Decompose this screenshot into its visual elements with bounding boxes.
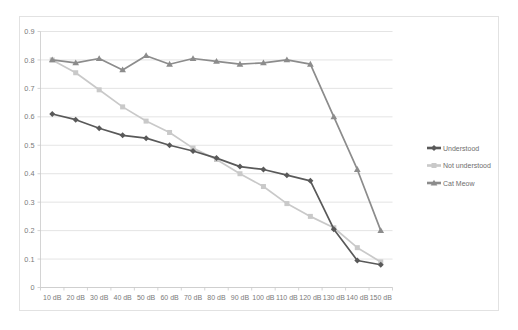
data-point-marker: [307, 178, 313, 184]
y-tick-label: 0.8: [24, 56, 34, 65]
data-point-marker: [143, 135, 149, 141]
x-tick-label: 70 dB: [184, 294, 203, 301]
x-tick-label: 110 dB: [276, 294, 298, 301]
data-point-marker: [96, 55, 103, 61]
y-tick-label: 0.6: [24, 112, 34, 121]
legend-label: Understood: [443, 145, 479, 152]
x-tick-label: 80 dB: [207, 294, 226, 301]
series-cat-meow: [49, 52, 384, 233]
series-line: [52, 114, 381, 265]
legend-label: Not understood: [443, 162, 491, 169]
data-point-marker: [97, 87, 102, 92]
data-point-marker: [143, 52, 150, 58]
x-tick-label: 130 dB: [323, 294, 346, 301]
data-point-marker: [120, 132, 126, 138]
line-chart: 00.10.20.30.40.50.60.70.80.9 10 dB20 dB3…: [0, 0, 518, 330]
data-point-marker: [308, 214, 313, 219]
legend-item-cat-meow[interactable]: Cat Meow: [427, 180, 475, 187]
x-tick-label: 40 dB: [113, 294, 132, 301]
x-tick-label: 60 dB: [160, 294, 179, 301]
data-point-marker: [167, 130, 172, 135]
y-tick-label: 0.3: [24, 198, 34, 207]
data-point-marker: [120, 104, 125, 109]
y-tick-label: 0: [30, 283, 34, 292]
data-point-marker: [284, 201, 289, 206]
legend-item-understood[interactable]: Understood: [427, 145, 479, 152]
data-point-marker: [237, 164, 243, 170]
x-tick-label: 10 dB: [43, 294, 62, 301]
data-point-marker: [73, 70, 78, 75]
y-tick-label: 0.1: [24, 255, 34, 264]
y-axis-tick-labels: 00.10.20.30.40.50.60.70.80.9: [24, 27, 34, 292]
series-understood: [49, 111, 384, 268]
x-tick-label: 140 dB: [346, 294, 369, 301]
x-tick-label: 20 dB: [67, 294, 86, 301]
chart-plot-area: 00.10.20.30.40.50.60.70.80.9 10 dB20 dB3…: [0, 0, 518, 330]
y-tick-label: 0.9: [24, 27, 34, 36]
x-tick-label: 90 dB: [231, 294, 250, 301]
y-tick-label: 0.2: [24, 226, 34, 235]
x-axis-tick-labels: 10 dB20 dB30 dB40 dB50 dB60 dB70 dB80 dB…: [43, 294, 392, 301]
x-tick-label: 120 dB: [299, 294, 322, 301]
data-point-marker: [261, 184, 266, 189]
data-point-marker: [49, 111, 55, 117]
legend-marker: [431, 145, 437, 151]
x-tick-label: 30 dB: [90, 294, 109, 301]
series-line: [52, 56, 381, 231]
legend-label: Cat Meow: [443, 180, 475, 187]
data-point-marker: [355, 245, 360, 250]
data-point-marker: [237, 171, 242, 176]
data-point-marker: [167, 142, 173, 148]
x-tick-label: 150 dB: [370, 294, 393, 301]
x-tick-label: 100 dB: [252, 294, 275, 301]
data-point-marker: [330, 113, 337, 119]
data-point-marker: [354, 166, 361, 172]
x-tick-label: 50 dB: [137, 294, 156, 301]
y-tick-label: 0.4: [24, 169, 34, 178]
chart-legend: UnderstoodNot understoodCat Meow: [427, 145, 491, 187]
data-point-marker: [73, 117, 79, 123]
legend-item-not-understood[interactable]: Not understood: [427, 162, 491, 169]
data-point-marker: [377, 227, 384, 233]
data-series-group: [49, 52, 384, 267]
data-point-marker: [96, 125, 102, 131]
y-tick-label: 0.5: [24, 141, 34, 150]
data-point-marker: [260, 166, 266, 172]
data-point-marker: [144, 119, 149, 124]
legend-marker: [432, 163, 437, 168]
y-tick-label: 0.7: [24, 84, 34, 93]
data-point-marker: [284, 172, 290, 178]
